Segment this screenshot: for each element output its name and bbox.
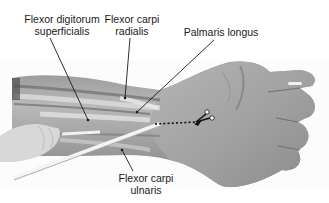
label-line: Flexor carpi (98, 13, 166, 25)
label-line: Flexor digitorum (12, 13, 112, 25)
label-flexor-carpi-ulnaris: Flexor carpi ulnaris (110, 172, 182, 196)
label-line: superficialis (12, 25, 112, 37)
label-line: Flexor carpi (110, 172, 182, 184)
label-flexor-carpi-radialis: Flexor carpi radialis (98, 13, 166, 37)
anatomy-figure: Flexor digitorum superficialis Flexor ca… (0, 0, 329, 203)
label-line: ulnaris (110, 184, 182, 196)
label-flexor-digitorum-superficialis: Flexor digitorum superficialis (12, 13, 112, 37)
label-palmaris-longus: Palmaris longus (180, 26, 262, 38)
label-line: Palmaris longus (180, 26, 262, 38)
label-line: radialis (98, 25, 166, 37)
